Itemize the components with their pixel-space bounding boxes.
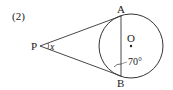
point-b-label: B xyxy=(117,77,124,89)
point-p-label: P xyxy=(31,40,37,52)
angle-70-pointer xyxy=(121,62,127,64)
angle-70-arc xyxy=(114,64,121,67)
angle-x-arc xyxy=(48,43,49,49)
angle-x-label: x xyxy=(49,41,55,52)
problem-number: (2) xyxy=(12,10,25,23)
angle-70-label: 70° xyxy=(128,56,142,67)
geometry-diagram: (2) P A B O x 70° xyxy=(0,0,173,90)
point-a-label: A xyxy=(117,3,125,15)
center-o-dot xyxy=(130,45,132,47)
point-o-label: O xyxy=(127,32,135,44)
